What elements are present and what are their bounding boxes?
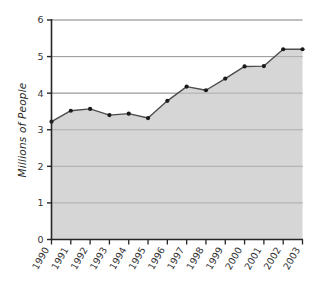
x-tick-label-1997: 1997 [165, 245, 187, 271]
y-tick-label-1: 1 [37, 197, 43, 208]
data-point-2002 [281, 47, 285, 51]
x-tick-label-2003: 2003 [281, 245, 303, 271]
data-point-1993 [107, 113, 111, 117]
x-tick-label-1996: 1996 [145, 245, 167, 271]
x-axis-labels-group: 1990199119921993199419951996199719981999… [30, 245, 303, 271]
x-tick-label-1992: 1992 [68, 245, 90, 271]
y-tick-label-0: 0 [37, 234, 43, 245]
data-point-2003 [300, 47, 304, 51]
x-tick-label-1999: 1999 [203, 245, 225, 271]
x-tick-label-1995: 1995 [126, 245, 148, 271]
x-tick-label-2001: 2001 [242, 245, 264, 271]
y-tick-label-6: 6 [37, 14, 43, 25]
data-point-1998 [204, 88, 208, 92]
data-point-1995 [146, 116, 150, 120]
data-point-1999 [223, 76, 227, 80]
x-tick-label-1998: 1998 [184, 245, 206, 271]
x-tick-label-1993: 1993 [88, 245, 110, 271]
data-point-2001 [262, 64, 266, 68]
y-tick-label-3: 3 [37, 124, 43, 135]
y-tick-label-2: 2 [37, 161, 43, 172]
data-point-1997 [185, 84, 189, 88]
y-axis-title: Millions of People [16, 83, 28, 178]
y-tick-label-5: 5 [37, 51, 43, 62]
x-tick-label-2002: 2002 [261, 245, 283, 271]
x-tick-label-2000: 2000 [223, 245, 245, 271]
data-point-1991 [69, 109, 73, 113]
x-tick-label-1994: 1994 [107, 245, 129, 271]
data-point-1994 [127, 112, 131, 116]
line-area-chart: 0123456 19901991199219931994199519961997… [0, 0, 324, 292]
chart-figure: 0123456 19901991199219931994199519961997… [0, 0, 324, 292]
x-tick-label-1991: 1991 [49, 245, 71, 271]
y-axis-ticks-group: 0123456 [37, 14, 51, 245]
x-tick-label-1990: 1990 [30, 245, 52, 271]
data-point-1996 [165, 99, 169, 103]
y-tick-label-4: 4 [37, 88, 43, 99]
data-point-2000 [242, 64, 246, 68]
data-point-1992 [88, 107, 92, 111]
